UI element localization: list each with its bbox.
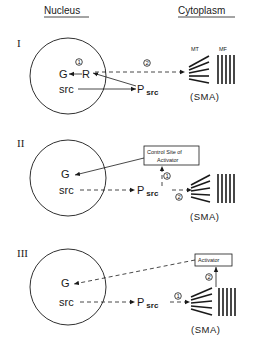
psrc-label: Psrc: [137, 184, 159, 198]
header-nucleus: Nucleus: [44, 5, 80, 16]
sma-label: (SMA): [190, 91, 219, 102]
sma-label: (SMA): [190, 211, 219, 222]
step-2-badge: 2: [176, 194, 183, 201]
mt-label: MT: [191, 46, 200, 52]
nucleus-circle: [30, 38, 106, 114]
psrc-label: Psrc: [137, 83, 159, 97]
sma-microfilament-bars: [218, 55, 234, 84]
activator-box: Activator: [195, 254, 232, 266]
box-to-g-arrow: [75, 158, 144, 175]
svg-text:Activator: Activator: [198, 257, 220, 263]
sma-microtubule-fan: [189, 56, 209, 83]
psrc-to-r-arrow: [93, 73, 136, 86]
panel-3: III G src Psrc 1 Activator 2: [17, 247, 235, 335]
panel-3-roman: III: [17, 247, 28, 259]
src-label: src: [59, 184, 74, 196]
gene-label: G: [59, 68, 68, 80]
panel-1: I G R 1 src Psrc 2 MT MF: [17, 37, 234, 114]
step-1-badge: 1: [76, 59, 83, 66]
step-1-badge: 1: [164, 173, 171, 180]
step-1-badge: 1: [175, 293, 182, 300]
diagram: Nucleus Cytoplasm I G R 1 src Psrc 2 MT …: [0, 0, 253, 351]
gene-label: G: [61, 168, 70, 180]
sma-microtubule-fan: [191, 288, 212, 315]
mf-label: MF: [219, 46, 228, 52]
step-2-badge: 2: [206, 274, 213, 281]
activator-to-g-dashed-arrow: [74, 260, 195, 284]
sma-label: (SMA): [191, 324, 220, 335]
panel-2: II G src Psrc Control Site of Activator …: [17, 137, 234, 222]
receptor-label: R: [82, 68, 90, 80]
sma-microfilament-bars: [219, 288, 235, 316]
header-cytoplasm: Cytoplasm: [178, 5, 225, 16]
svg-text:Activator: Activator: [157, 157, 179, 163]
src-label: src: [59, 296, 74, 308]
sma-microfilament-bars: [218, 174, 234, 203]
control-site-box: Control Site of Activator: [144, 146, 199, 165]
gene-label: G: [61, 277, 70, 289]
step-2-badge: 2: [144, 60, 151, 67]
psrc-label: Psrc: [137, 296, 159, 310]
panel-1-roman: I: [17, 37, 21, 49]
svg-text:Control Site of: Control Site of: [147, 149, 182, 155]
src-label: src: [59, 83, 74, 95]
panel-2-roman: II: [17, 137, 25, 149]
sma-microtubule-fan: [191, 175, 210, 202]
